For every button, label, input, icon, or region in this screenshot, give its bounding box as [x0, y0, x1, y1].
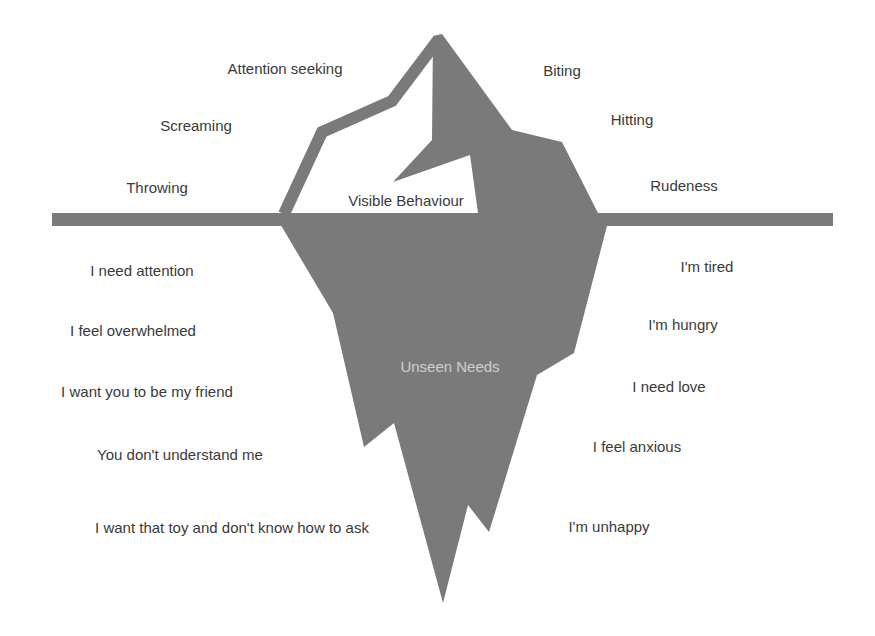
need-label: I want that toy and don't know how to as… [95, 519, 369, 537]
behaviour-label: Throwing [126, 179, 188, 197]
need-label: I'm tired [681, 258, 734, 276]
unseen-needs-label: Unseen Needs [400, 358, 499, 376]
behaviour-label: Hitting [611, 111, 654, 129]
need-label: I'm unhappy [568, 518, 649, 536]
need-label: I need love [632, 378, 705, 396]
behaviour-label: Rudeness [650, 177, 718, 195]
need-label: I'm hungry [648, 316, 718, 334]
behaviour-label: Biting [543, 62, 581, 80]
need-label: You don't understand me [97, 446, 263, 464]
iceberg-submerged [279, 222, 608, 603]
visible-behaviour-label: Visible Behaviour [348, 192, 464, 210]
behaviour-label: Attention seeking [227, 60, 342, 78]
need-label: I want you to be my friend [61, 383, 233, 401]
need-label: I need attention [90, 262, 193, 280]
need-label: I feel overwhelmed [70, 322, 196, 340]
iceberg-diagram [0, 0, 875, 636]
need-label: I feel anxious [593, 438, 681, 456]
behaviour-label: Screaming [160, 117, 232, 135]
